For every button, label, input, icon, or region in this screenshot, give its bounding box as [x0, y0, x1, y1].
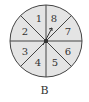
- diagram-caption: B: [0, 84, 89, 97]
- sector-label-8: 8: [51, 13, 57, 24]
- spinner-diagram: 1 2 3 4 5 6 7 8: [0, 0, 89, 82]
- sector-label-7: 7: [65, 26, 71, 37]
- sector-label-5: 5: [52, 57, 58, 68]
- sector-label-3: 3: [22, 46, 28, 57]
- sector-label-1: 1: [36, 13, 42, 24]
- sector-label-4: 4: [35, 57, 41, 68]
- sector-label-6: 6: [65, 46, 71, 57]
- sector-label-2: 2: [22, 26, 28, 37]
